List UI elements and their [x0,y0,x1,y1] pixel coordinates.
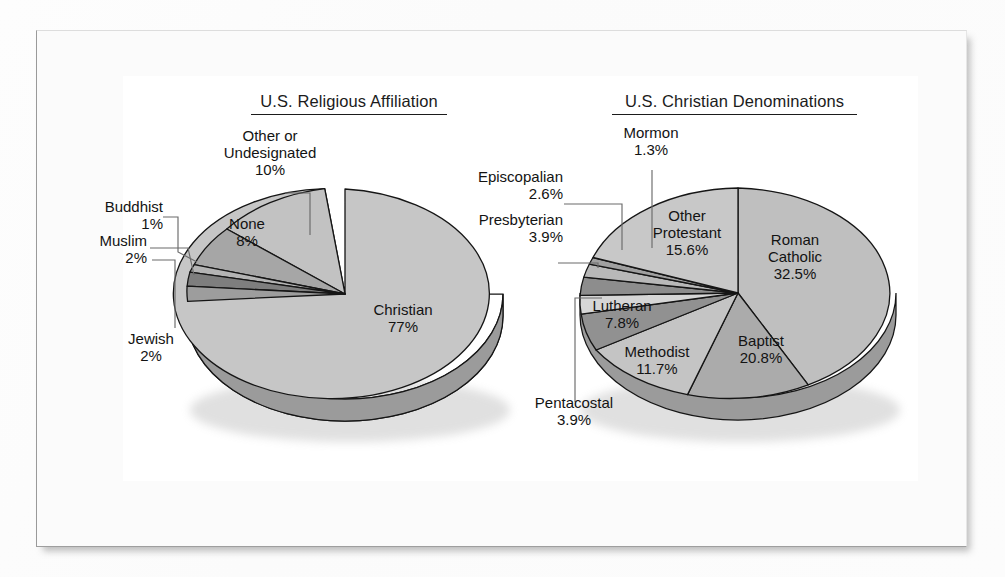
left-label-none: None 8% [219,216,275,250]
right-label-pentacostal: Pentacostal 3.9% [512,395,636,429]
right-label-baptist: Baptist 20.8% [723,333,799,367]
left-label-jewish: Jewish 2% [118,331,184,365]
right-label-other-protestant: Other Protestant 15.6% [637,208,737,258]
left-chart-title: U.S. Religious Affiliation [251,92,447,115]
left-label-muslim: Muslim 2% [73,233,147,267]
right-label-methodist: Methodist 11.7% [608,344,706,378]
figure-page: U.S. Religious Affiliation [0,0,1005,577]
right-chart-title: U.S. Christian Denominations [612,92,857,115]
right-label-roman-catholic: Roman Catholic 32.5% [748,232,842,282]
right-label-presbyterian: Presbyterian 3.9% [470,212,563,246]
left-label-other-undesignated: Other or Undesignated 10% [210,128,330,178]
right-label-lutheran: Lutheran 7.8% [578,298,666,332]
right-label-episcopalian: Episcopalian 2.6% [477,169,563,203]
leader-jewish [152,260,175,328]
left-label-christian: Christian 77% [358,302,448,336]
left-label-buddhist: Buddhist 1% [83,199,163,233]
right-label-mormon: Mormon 1.3% [595,125,707,159]
